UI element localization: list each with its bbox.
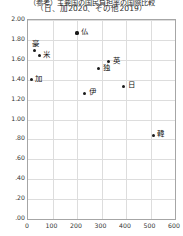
data-point-label: 仏 bbox=[81, 28, 88, 36]
gridline-vertical bbox=[102, 20, 103, 219]
data-point-label: 伊 bbox=[89, 88, 96, 96]
y-axis-tick-label: 2.00 bbox=[1, 16, 25, 22]
gridline-vertical bbox=[151, 20, 152, 219]
plot-area: 仏豪米英独加日伊韓 bbox=[27, 19, 176, 220]
data-point-marker bbox=[30, 78, 33, 81]
data-point-marker bbox=[97, 67, 100, 70]
gridline-vertical bbox=[126, 20, 127, 219]
y-axis-tick-label: 1.60 bbox=[1, 56, 25, 62]
y-axis-tick-label: .60 bbox=[1, 155, 25, 161]
data-point-label: 日 bbox=[128, 81, 135, 89]
data-point-label: 米 bbox=[43, 51, 50, 59]
x-axis-tick-label: 600 bbox=[159, 222, 183, 230]
data-point-marker bbox=[122, 85, 125, 88]
y-axis-tick-label: 1.80 bbox=[1, 36, 25, 42]
y-axis-tick-label: .40 bbox=[1, 175, 25, 181]
y-axis-tick-label: .80 bbox=[1, 135, 25, 141]
y-axis-tick-label: 1.40 bbox=[1, 76, 25, 82]
data-point-label: 韓 bbox=[157, 130, 164, 138]
data-point-label: 加 bbox=[35, 75, 42, 83]
data-point-marker bbox=[83, 92, 86, 95]
data-point-label: 英 bbox=[113, 57, 120, 65]
y-axis-labels: .00.20.40.60.801.001.201.401.601.802.00 bbox=[0, 19, 25, 220]
scatter-chart: （参考）主要国の国民負担率の国際比較 （日、加2020、その他2019） .00… bbox=[0, 0, 183, 236]
y-axis-tick-label: 1.20 bbox=[1, 96, 25, 102]
gridline-vertical bbox=[53, 20, 54, 219]
y-axis-tick-label: .00 bbox=[1, 215, 25, 221]
gridline-vertical bbox=[77, 20, 78, 219]
data-point-marker bbox=[38, 54, 41, 57]
data-point-label: 独 bbox=[103, 64, 110, 72]
chart-title: （日、加2020、その他2019） bbox=[0, 3, 183, 14]
x-axis-labels: 0100200300400500600 bbox=[27, 222, 176, 234]
data-point-marker bbox=[152, 134, 155, 137]
y-axis-tick-label: 1.00 bbox=[1, 116, 25, 122]
data-point-marker bbox=[75, 31, 78, 34]
data-point-label: 豪 bbox=[32, 40, 39, 48]
data-point-marker bbox=[33, 49, 36, 52]
y-axis-tick-label: .20 bbox=[1, 195, 25, 201]
